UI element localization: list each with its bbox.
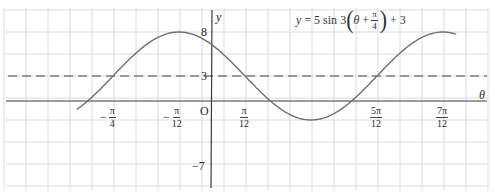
y-axis [211,10,212,188]
x-tick-5pi-12: 5π12 [370,106,382,129]
y-axis-label: y [216,11,221,23]
y-tick-minus-7: −7 [192,160,205,172]
grid-lines [4,8,488,190]
x-tick-7pi-12: 7π12 [436,106,448,129]
open-paren: ( [346,8,353,32]
close-paren: ) [380,8,387,32]
equation-label: y = 5 sin 3 ( θ + π4 ) + 3 [296,9,406,31]
x-axis-label: θ [479,89,485,101]
x-tick-minus-pi-12: − π12 [163,106,182,129]
x-tick-minus-pi-4: − π4 [100,106,116,129]
y-tick-3: 3 [201,70,207,82]
y-tick-8: 8 [201,26,207,38]
x-tick-pi-12: π12 [239,106,249,129]
sine-graph [0,0,495,195]
origin-label: O [200,105,209,117]
